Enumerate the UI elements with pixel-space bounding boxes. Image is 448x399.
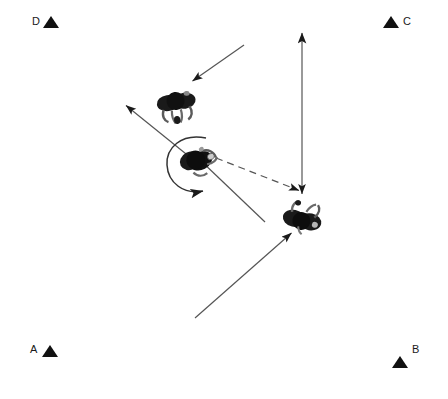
diagram-canvas: D C A B — [0, 0, 448, 399]
arrow-dashed-to-right-figure — [216, 158, 299, 191]
corner-marker-b: B — [392, 344, 420, 368]
corner-marker-c: C — [383, 16, 411, 28]
corner-marker-d: D — [32, 16, 59, 28]
arrow-incoming-top — [193, 45, 245, 81]
figure-center — [176, 141, 221, 183]
arrow-incoming-bottom — [195, 233, 292, 318]
figure-right — [280, 198, 325, 238]
triangle-icon — [43, 16, 59, 28]
corner-marker-d-label: D — [32, 16, 40, 27]
triangle-icon — [392, 356, 408, 368]
corner-marker-a-label: A — [30, 344, 38, 355]
corner-marker-c-label: C — [403, 16, 411, 27]
figure-top — [156, 89, 199, 126]
corner-marker-a: A — [30, 344, 58, 357]
triangle-icon — [383, 16, 399, 28]
corner-marker-b-label: B — [412, 344, 420, 355]
arrow-down-right — [199, 159, 265, 222]
triangle-icon — [42, 345, 58, 357]
diagram-vector-layer — [0, 0, 448, 399]
